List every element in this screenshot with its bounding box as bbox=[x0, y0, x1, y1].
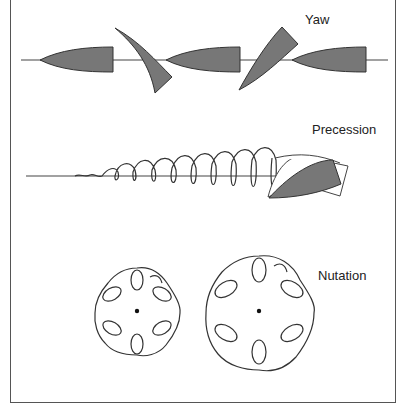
nutation-loop bbox=[131, 334, 143, 354]
nutation-loop bbox=[252, 340, 266, 364]
precession-spiral bbox=[75, 148, 276, 188]
precession-diagram bbox=[26, 148, 348, 198]
nutation-loop bbox=[278, 321, 306, 345]
nutation-loop bbox=[100, 318, 123, 338]
projectile-4-yawed bbox=[239, 27, 298, 90]
nutation-loop bbox=[131, 270, 143, 290]
projectile-3 bbox=[166, 47, 240, 72]
nutation-diagram bbox=[95, 256, 315, 371]
projectile-5 bbox=[292, 47, 366, 72]
nutation-loop bbox=[212, 321, 240, 345]
nutation-label: Nutation bbox=[318, 268, 366, 283]
nutation-start-tick bbox=[274, 264, 287, 272]
nutation-loop bbox=[278, 277, 306, 301]
nutation-loop bbox=[150, 318, 173, 338]
nutation-envelope-large bbox=[206, 256, 315, 371]
nutation-start-tick bbox=[150, 276, 162, 283]
diagram-canvas: Yaw Precession bbox=[0, 0, 405, 406]
precession-label: Precession bbox=[312, 122, 376, 137]
projectile-1 bbox=[40, 47, 113, 72]
yaw-label: Yaw bbox=[305, 12, 330, 27]
nutation-center-dot bbox=[135, 309, 139, 313]
nutation-center-dot bbox=[257, 309, 261, 313]
nutation-loop bbox=[100, 284, 123, 304]
yaw-diagram bbox=[21, 27, 388, 93]
nutation-loop bbox=[252, 258, 266, 282]
nutation-rosette-small bbox=[95, 268, 180, 356]
nutation-rosette-large bbox=[206, 256, 315, 371]
